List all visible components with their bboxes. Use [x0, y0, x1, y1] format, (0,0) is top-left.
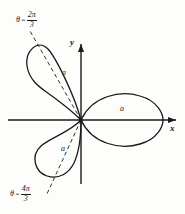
equals-symbol-bottom: =	[15, 191, 20, 198]
petal-label-lower-left: a	[61, 145, 65, 153]
petal-label-upper-left: a	[62, 69, 66, 77]
rose-petal-lower-left	[35, 120, 81, 177]
polar-rose-figure: y x a a a θ = 2π 3 θ = 4π 3	[0, 0, 185, 214]
figure-canvas	[0, 0, 185, 214]
fraction-denominator-bottom: 3	[23, 195, 29, 203]
angle-label-4pi-over-3: θ = 4π 3	[10, 185, 31, 203]
fraction-numerator-top: 2π	[27, 11, 37, 19]
fraction-numerator-bottom: 4π	[21, 185, 31, 193]
fraction-4pi-over-3: 4π 3	[21, 185, 31, 203]
theta-symbol-top: θ	[16, 16, 20, 24]
fraction-2pi-over-3: 2π 3	[27, 11, 37, 29]
origin-point	[79, 118, 83, 122]
theta-symbol-bottom: θ	[10, 190, 14, 198]
rose-petal-upper-left	[27, 45, 81, 120]
x-axis	[8, 117, 176, 123]
petal-label-right: a	[120, 105, 124, 113]
fraction-denominator-top: 3	[29, 21, 35, 29]
y-axis-label: y	[70, 38, 74, 47]
x-axis-label: x	[170, 124, 175, 133]
angle-label-2pi-over-3: θ = 2π 3	[16, 11, 37, 29]
equals-symbol-top: =	[21, 17, 26, 24]
y-axis-arrowhead	[78, 44, 84, 52]
